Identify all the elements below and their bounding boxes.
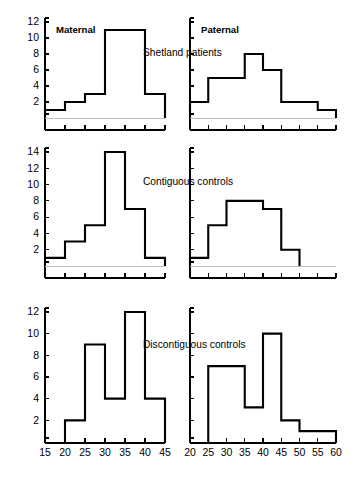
histogram-outline-contiguous-paternal [190,201,300,266]
histogram-outline-contiguous-maternal [45,152,165,266]
y-tick-label-14: 14 [27,145,39,157]
y-tick-label-6: 6 [33,210,39,222]
row-title-contiguous-controls: Contiguous controls [143,176,233,187]
y-tick-label-8: 8 [33,47,39,59]
column-heading-paternal: Paternal [201,24,239,35]
y-tick-label-4: 4 [33,392,39,404]
column-heading-maternal: Maternal [56,24,95,35]
y-tick-label-10: 10 [27,327,39,339]
x-tick-label-30: 30 [221,446,233,458]
row-title-shetland-patients: Shetland patients [143,47,222,58]
y-tick-label-10: 10 [27,178,39,190]
x-tick-label-20: 20 [184,446,196,458]
y-tick-label-12: 12 [27,305,39,317]
panel-shetland-maternal: 24681012 [27,15,165,130]
x-tick-label-30: 30 [99,446,111,458]
y-tick-label-8: 8 [33,349,39,361]
x-tick-label-40: 40 [257,446,269,458]
x-tick-label-60: 60 [330,446,342,458]
x-tick-label-50: 50 [294,446,306,458]
x-tick-label-45: 45 [159,446,171,458]
histogram-svg: 2468101224681012142468101215202530354045… [0,0,363,481]
y-tick-label-4: 4 [33,79,39,91]
y-tick-label-10: 10 [27,31,39,43]
histogram-outline-shetland-paternal [190,54,336,118]
row-title-discontiguous-controls: Discontiguous controls [143,339,246,350]
x-tick-label-25: 25 [79,446,91,458]
x-tick-label-20: 20 [59,446,71,458]
x-tick-label-40: 40 [139,446,151,458]
y-tick-label-4: 4 [33,227,39,239]
y-tick-label-2: 2 [33,243,39,255]
panel-contiguous-maternal: 2468101214 [27,145,165,278]
histogram-outline-discontiguous-maternal [65,312,165,442]
y-tick-label-2: 2 [33,95,39,107]
x-tick-label-55: 55 [312,446,324,458]
x-tick-label-25: 25 [202,446,214,458]
x-tick-label-35: 35 [119,446,131,458]
y-tick-label-6: 6 [33,370,39,382]
y-tick-label-12: 12 [27,15,39,27]
y-tick-label-2: 2 [33,414,39,426]
x-tick-label-45: 45 [275,446,287,458]
x-tick-label-15: 15 [39,446,51,458]
histogram-outline-shetland-maternal [45,30,165,118]
histogram-figure: 2468101224681012142468101215202530354045… [0,0,363,481]
panel-contiguous-paternal [190,148,336,278]
y-tick-label-8: 8 [33,194,39,206]
x-tick-label-35: 35 [239,446,251,458]
y-tick-label-12: 12 [27,162,39,174]
y-tick-label-6: 6 [33,63,39,75]
panel-discontiguous-maternal: 2468101215202530354045 [27,305,171,458]
panel-discontiguous-paternal: 202530354045505560 [184,308,342,458]
